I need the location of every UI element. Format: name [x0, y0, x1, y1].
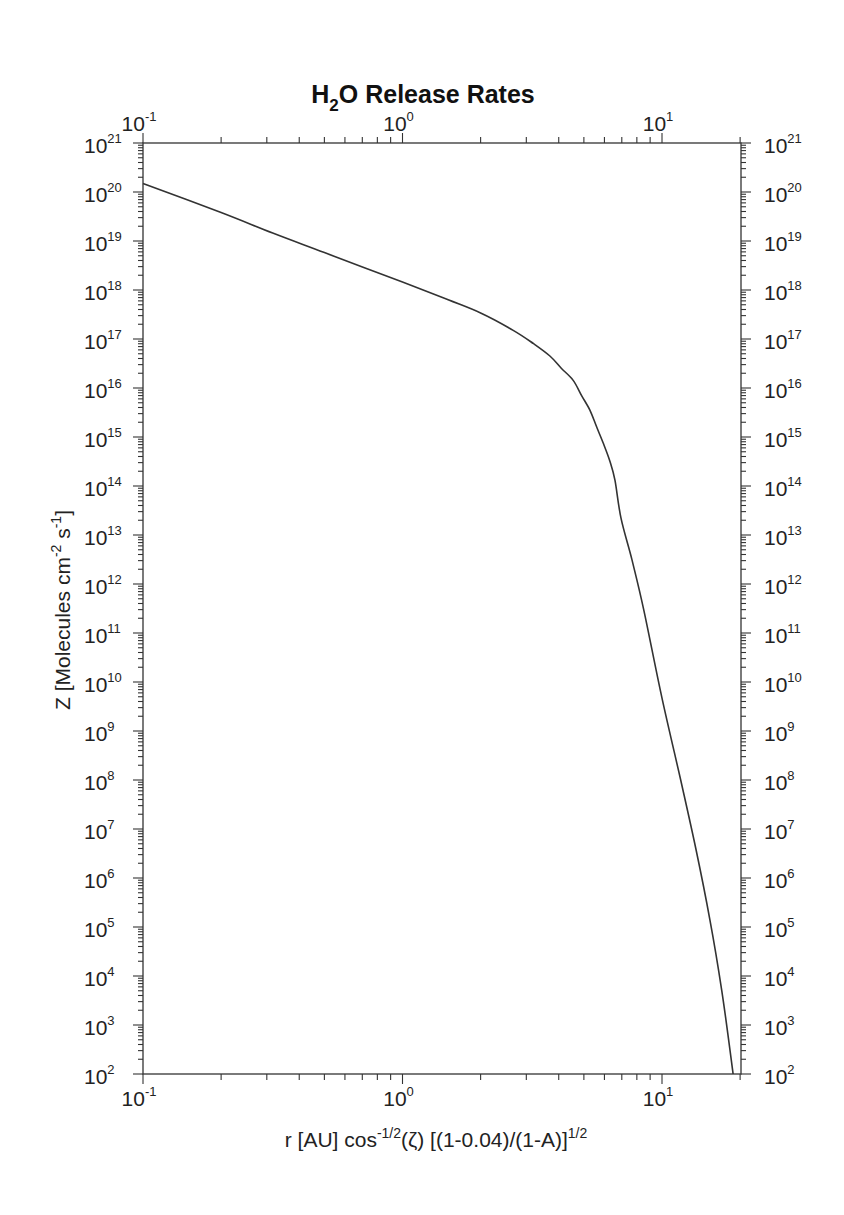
y-tick-label-right: 1010 — [764, 670, 802, 696]
y-tick-label-right: 106 — [764, 866, 795, 892]
x-axis-bottom-ticks — [143, 1074, 740, 1084]
chart-title: H2O Release Rates — [311, 80, 534, 115]
y-tick-label-right: 108 — [764, 768, 795, 794]
y-tick-label-right: 1019 — [764, 229, 802, 255]
y-tick-label-left: 1017 — [84, 327, 122, 353]
y-tick-label-right: 104 — [764, 964, 795, 990]
x-axis-top-labels: 10-1100101 — [122, 109, 674, 135]
x-tick-label-top: 101 — [643, 109, 674, 135]
y-tick-label-left: 1014 — [84, 474, 122, 500]
x-tick-label-top: 100 — [383, 109, 414, 135]
y-tick-label-right: 1015 — [764, 425, 802, 451]
y-tick-label-left: 102 — [84, 1062, 115, 1088]
y-tick-label-left: 107 — [84, 817, 115, 843]
chart: H2O Release Rates 10-1100101 10-1100101 … — [0, 0, 844, 1215]
x-axis-bottom-labels: 10-1100101 — [122, 1084, 674, 1110]
y-tick-label-right: 107 — [764, 817, 795, 843]
y-tick-label-left: 1018 — [84, 278, 122, 304]
x-tick-label-top: 10-1 — [122, 109, 157, 135]
x-tick-label-bottom: 10-1 — [122, 1084, 157, 1110]
y-tick-label-left: 1019 — [84, 229, 122, 255]
plot-frame — [143, 143, 741, 1074]
y-tick-label-left: 1011 — [84, 621, 121, 647]
y-axis-right-labels: 1021102010191018101710161015101410131012… — [764, 131, 802, 1088]
y-tick-label-right: 1014 — [764, 474, 802, 500]
y-tick-label-right: 1018 — [764, 278, 802, 304]
y-tick-label-left: 108 — [84, 768, 115, 794]
y-tick-label-right: 1020 — [764, 180, 802, 206]
y-tick-label-left: 1012 — [84, 572, 122, 598]
y-tick-label-right: 1012 — [764, 572, 802, 598]
y-tick-label-left: 1013 — [84, 523, 122, 549]
y-tick-label-right: 1011 — [764, 621, 801, 647]
y-tick-label-left: 105 — [84, 915, 115, 941]
y-tick-label-left: 1015 — [84, 425, 122, 451]
y-tick-label-right: 1021 — [764, 131, 802, 157]
y-tick-label-right: 1013 — [764, 523, 802, 549]
y-axis-left-labels: 1021102010191018101710161015101410131012… — [84, 131, 122, 1088]
y-tick-label-right: 105 — [764, 915, 795, 941]
x-tick-label-bottom: 100 — [383, 1084, 414, 1110]
y-tick-label-right: 1016 — [764, 376, 802, 402]
y-tick-label-left: 109 — [84, 719, 115, 745]
y-axis-right-ticks — [741, 143, 751, 1074]
y-tick-label-right: 109 — [764, 719, 795, 745]
y-tick-label-left: 1016 — [84, 376, 122, 402]
y-axis-label: Z [Molecules cm-2 s-1] — [48, 510, 74, 710]
y-tick-label-left: 106 — [84, 866, 115, 892]
y-tick-label-left: 103 — [84, 1013, 115, 1039]
release-rate-curve — [143, 183, 733, 1074]
x-axis-label: r [AU] cos-1/2(ζ) [(1-0.04)/(1-A)]1/2 — [285, 1125, 588, 1151]
x-tick-label-bottom: 101 — [643, 1084, 674, 1110]
y-tick-label-right: 1017 — [764, 327, 802, 353]
y-tick-label-left: 1010 — [84, 670, 122, 696]
y-axis-left-ticks — [133, 143, 143, 1074]
y-tick-label-left: 104 — [84, 964, 115, 990]
y-tick-label-left: 1021 — [84, 131, 122, 157]
y-tick-label-left: 1020 — [84, 180, 122, 206]
y-tick-label-right: 103 — [764, 1013, 795, 1039]
y-tick-label-right: 102 — [764, 1062, 795, 1088]
